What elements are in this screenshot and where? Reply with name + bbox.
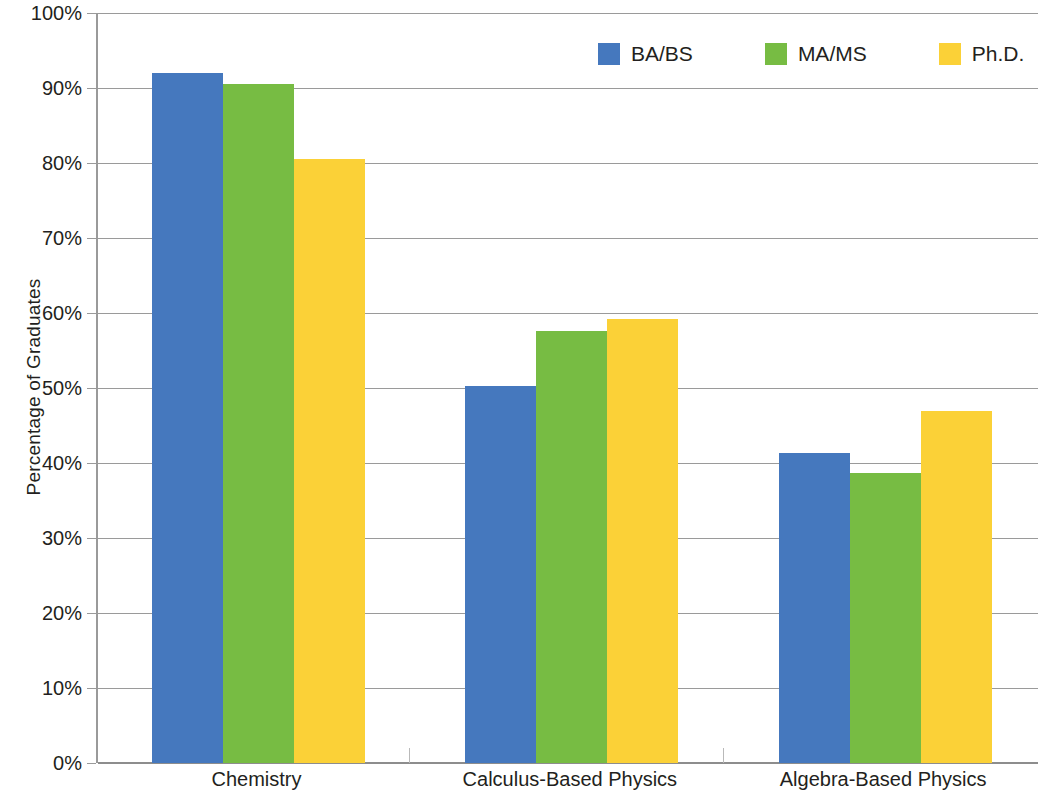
y-axis-tick: [87, 688, 96, 689]
y-axis-tick: [87, 613, 96, 614]
y-axis-tick: [87, 13, 96, 14]
y-axis-tick-label: 0%: [12, 752, 82, 775]
y-axis-tick-label: 70%: [12, 227, 82, 250]
plot-area: 0%10%20%30%40%50%60%70%80%90%100%: [96, 13, 1036, 763]
y-axis-tick: [87, 163, 96, 164]
legend-label: BA/BS: [631, 42, 693, 66]
x-axis-tick-label: Calculus-Based Physics: [463, 768, 678, 791]
legend-item[interactable]: BA/BS: [598, 42, 693, 66]
bar: [921, 411, 992, 764]
chart-legend: BA/BSMA/MSPh.D.: [598, 42, 1024, 66]
x-axis-tick-label: Algebra-Based Physics: [780, 768, 987, 791]
bar: [607, 319, 678, 763]
bar: [536, 331, 607, 763]
legend-label: MA/MS: [798, 42, 867, 66]
y-axis-tick-label: 10%: [12, 677, 82, 700]
y-axis-tick: [87, 238, 96, 239]
y-axis-tick: [87, 88, 96, 89]
bar: [465, 386, 536, 763]
y-axis-tick-label: 60%: [12, 302, 82, 325]
y-axis-tick-label: 30%: [12, 527, 82, 550]
y-axis-tick-label: 90%: [12, 77, 82, 100]
bar: [223, 84, 294, 763]
y-axis-tick: [87, 463, 96, 464]
legend-color-swatch: [598, 43, 620, 65]
y-axis-tick: [87, 313, 96, 314]
x-axis-separator: [409, 748, 410, 763]
bar: [779, 453, 850, 764]
legend-color-swatch: [939, 43, 961, 65]
y-axis-tick-label: 50%: [12, 377, 82, 400]
y-axis-tick: [87, 538, 96, 539]
y-axis-tick: [87, 388, 96, 389]
legend-color-swatch: [765, 43, 787, 65]
bar: [850, 473, 921, 763]
gridline: [98, 13, 1038, 14]
legend-item[interactable]: MA/MS: [765, 42, 867, 66]
x-axis-separator: [723, 748, 724, 763]
legend-label: Ph.D.: [972, 42, 1025, 66]
y-axis-tick-label: 20%: [12, 602, 82, 625]
y-axis-tick-label: 80%: [12, 152, 82, 175]
legend-item[interactable]: Ph.D.: [939, 42, 1025, 66]
bar: [152, 73, 223, 763]
x-axis-tick-label: Chemistry: [211, 768, 301, 791]
bar-chart: Percentage of Graduates 0%10%20%30%40%50…: [0, 0, 1038, 798]
bar: [294, 159, 365, 763]
y-axis-tick-label: 40%: [12, 452, 82, 475]
y-axis-tick-label: 100%: [12, 2, 82, 25]
y-axis-tick: [87, 763, 96, 764]
